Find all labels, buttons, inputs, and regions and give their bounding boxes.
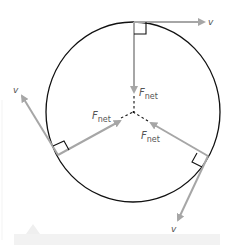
faint-triangle-icon — [26, 224, 40, 234]
top-point: v Fnet — [134, 17, 214, 101]
right-angle-mark-left — [53, 141, 69, 150]
force-label-right-sub: net — [147, 135, 160, 144]
left-point: v Fnet — [13, 85, 120, 155]
right-angle-mark-top — [134, 22, 146, 34]
velocity-arrow-left — [22, 96, 58, 155]
center-point — [133, 111, 135, 113]
force-arrow-left — [58, 121, 120, 155]
force-label-right: Fnet — [141, 130, 160, 144]
velocity-label-right: v — [171, 224, 177, 234]
force-label-top: Fnet — [139, 87, 158, 101]
right-point: v Fnet — [141, 123, 208, 234]
force-label-top-sub: net — [145, 92, 158, 101]
velocity-arrow-right — [178, 156, 208, 220]
force-label-left: Fnet — [92, 110, 111, 124]
bottom-bar — [14, 234, 220, 245]
right-angle-mark-right — [192, 153, 202, 167]
velocity-label-left: v — [13, 85, 19, 95]
velocity-label-top: v — [208, 17, 214, 27]
force-label-left-sub: net — [98, 115, 111, 124]
circular-motion-diagram: v Fnet v Fnet v Fnet — [0, 0, 229, 245]
